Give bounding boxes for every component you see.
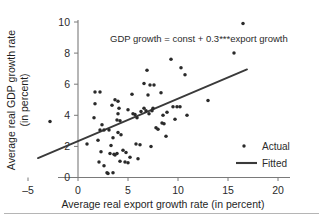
y-tick-label: 10 [58,16,70,28]
scatter-point [162,122,166,126]
scatter-point [133,113,137,117]
scatter-plot-svg: 10 8 6 4 2 0 –5 0 5 10 15 20 Average rea… [0,0,323,223]
scatter-point [183,73,187,77]
x-tick-label: 20 [272,184,284,196]
scatter-point [149,145,153,149]
scatter-point [117,107,121,111]
scatter-point [148,83,152,87]
scatter-point [241,22,245,26]
x-tick-label: –5 [22,184,34,196]
scatter-point [107,128,111,132]
y-tick-label: 6 [64,78,70,90]
scatter-point [151,107,155,111]
x-tick-label: 0 [75,184,81,196]
scatter-point [92,116,96,120]
scatter-point [102,164,106,168]
x-tick-labels: –5 0 5 10 15 20 [22,184,284,196]
scatter-point [144,109,148,113]
scatter-point [171,105,175,109]
scatter-point [100,123,104,127]
scatter-point [156,128,160,132]
scatter-point [115,118,119,122]
y-tickmarks [74,22,78,178]
scatter-point [139,110,143,114]
legend-marker-actual [242,144,245,147]
scatter-point [232,51,236,55]
scatter-point [98,90,102,94]
scatter-point [128,156,132,160]
scatter-point [108,152,112,156]
scatter-point [98,128,102,132]
legend-label-fitted: Fitted [262,158,287,169]
x-tick-label: 5 [125,184,131,196]
y-tick-label: 4 [64,109,70,121]
x-axis-title: Average real export growth rate (in perc… [62,198,265,210]
scatter-point [146,93,150,97]
y-tick-label: 8 [64,47,70,59]
chart-figure: 10 8 6 4 2 0 –5 0 5 10 15 20 Average rea… [0,0,323,223]
scatter-point [175,105,179,109]
legend-label-actual: Actual [262,141,290,152]
x-tick-label: 15 [222,184,234,196]
scatter-point [124,151,128,155]
scatter-point [116,131,120,135]
scatter-point [121,149,125,153]
scatter-point [113,98,117,102]
y-tick-label: 0 [64,171,70,183]
scatter-point [206,99,210,103]
scatter-point [178,105,182,109]
scatter-point [185,114,189,118]
scatter-point [85,142,89,146]
scatter-point [130,93,134,97]
scatter-point [116,112,120,116]
y-axis-title-line1: Average real GDP growth rate [5,30,17,170]
scatter-point [48,120,52,124]
scatter-point [116,100,120,104]
scatter-point [93,102,97,106]
scatter-point [136,157,140,161]
scatter-point [179,66,183,70]
scatter-point [118,119,122,123]
scatter-point [135,116,139,120]
scatter-point [102,128,106,132]
scatter-point [110,103,114,107]
scatter-point [147,112,151,116]
scatter-point [126,108,130,112]
x-tick-label: 10 [172,184,184,196]
scatter-point [97,160,101,164]
scatter-point [111,171,115,175]
scatter-point [106,172,110,176]
scatter-point [126,161,130,165]
scatter-point [145,68,149,72]
scatter-point [123,160,127,164]
y-tick-labels: 10 8 6 4 2 0 [58,16,70,184]
scatter-point [93,90,97,94]
scatter-point [99,150,103,154]
scatter-point [152,83,156,87]
scatter-point [161,114,165,118]
scatter-point [96,138,100,142]
scatter-point [111,136,115,140]
scatter-point [119,133,123,137]
y-axis-title-line2: (in percent) [18,73,30,126]
scatter-point [173,117,177,121]
scatter-point [109,144,113,148]
scatter-point [138,143,142,147]
scatter-point [169,58,173,62]
scatter-point [142,82,146,86]
chart-legend: Actual Fitted [236,141,290,169]
scatter-point [165,110,169,114]
regression-annotation: GDP growth = const + 0.3***export growth [110,33,288,44]
scatter-point [115,152,119,156]
scatter-point [164,135,168,139]
scatter-point [159,91,163,95]
scatter-point [118,159,122,163]
scatter-point [134,142,138,146]
